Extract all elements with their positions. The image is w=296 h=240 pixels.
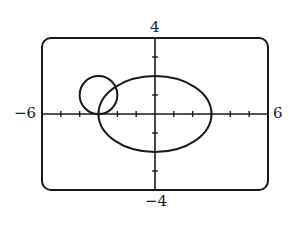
ymax-label: 4: [150, 20, 160, 35]
xmax-label: 6: [273, 106, 283, 121]
ymin-label: −4: [145, 194, 167, 209]
xmin-label: −6: [14, 106, 36, 121]
axes: [42, 38, 268, 190]
